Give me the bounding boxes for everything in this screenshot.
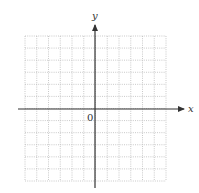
coordinate-plane: x y 0 [0,0,199,193]
origin-label: 0 [87,112,93,123]
x-axis-label: x [188,103,194,114]
y-axis-label: y [91,10,98,21]
